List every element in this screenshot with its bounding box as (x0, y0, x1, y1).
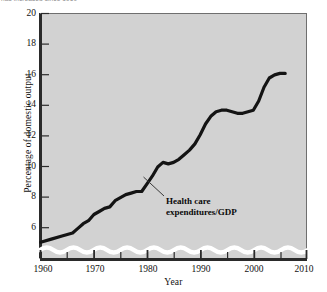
series-annotation-label: Health care expenditures/GDP (166, 196, 237, 218)
x-tick-label-1990: 1990 (181, 264, 221, 274)
x-tick-label-2010: 2010 (284, 264, 324, 274)
x-axis-title: Year (40, 277, 307, 287)
annotation-line-2: expenditures/GDP (166, 207, 237, 218)
x-tick-label-2000: 2000 (234, 264, 274, 274)
annotation-line-1: Health care (166, 196, 211, 206)
chart-figure: 20 18 16 14 12 10 8 6 Percentage of dome… (0, 0, 327, 292)
x-tick-label-1980: 1980 (128, 264, 168, 274)
x-tick-label-1960: 1960 (23, 264, 63, 274)
x-axis-tick-labels: 1960 1970 1980 1990 2000 2010 (0, 0, 327, 292)
x-tick-label-1970: 1970 (75, 264, 115, 274)
